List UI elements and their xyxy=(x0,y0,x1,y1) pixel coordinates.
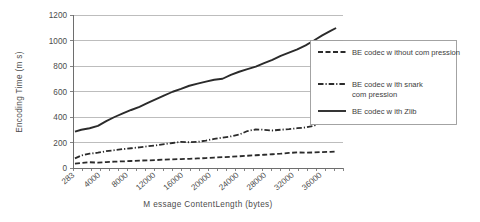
y-tick-label: 600 xyxy=(53,88,67,97)
encoding-time-line-chart: 020040060080010001200 283400080001200016… xyxy=(0,0,480,222)
chart-legend: BE codec w ithout com pressionBE codec w… xyxy=(311,41,461,125)
y-tick-label: 200 xyxy=(53,139,67,148)
legend-label-1-line2: com pression xyxy=(352,90,397,99)
y-tick-label: 0 xyxy=(62,164,67,173)
y-tick-label: 1000 xyxy=(49,37,68,46)
legend-label-2: BE codec w ith Zlib xyxy=(352,107,417,116)
chart-canvas: 020040060080010001200 283400080001200016… xyxy=(0,0,480,222)
y-axis-title: Encoding Time (m s) xyxy=(15,51,24,133)
x-axis-title: M essage ContentLength (bytes) xyxy=(143,200,272,209)
y-tick-label: 800 xyxy=(53,62,67,71)
legend-label-0: BE codec w ithout com pression xyxy=(352,48,460,57)
y-tick-label: 400 xyxy=(53,113,67,122)
y-tick-label: 1200 xyxy=(49,11,68,20)
legend-label-1: BE codec w ith snark xyxy=(352,80,423,89)
